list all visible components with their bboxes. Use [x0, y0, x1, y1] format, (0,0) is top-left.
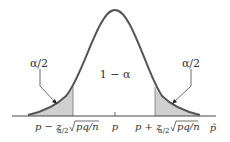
left-tail-shaded-region	[28, 88, 73, 116]
upper-bound-label: p + z α/2 pq/n	[135, 121, 200, 135]
right-tail-shaded-region	[155, 88, 200, 116]
lower-bound-subscript: α/2	[57, 127, 69, 135]
right-tail-label: α/2	[182, 57, 200, 70]
right-tail-leader-line	[172, 69, 191, 104]
upper-bound-radicand: pq/n	[177, 121, 200, 132]
lower-bound-label: p − z α/2 pq/n	[35, 121, 99, 135]
center-area-label: 1 − α	[100, 68, 131, 81]
normal-curve-diagram: α/2 α/2 1 − α p − z α/2 pq/n p p + z α/2…	[0, 0, 230, 142]
left-tail-leader-line	[40, 69, 57, 104]
upper-bound-subscript: α/2	[158, 127, 170, 135]
center-tick-label: p	[112, 121, 119, 132]
axis-variable-label: p̂	[210, 122, 217, 133]
lower-bound-radicand: pq/n	[76, 121, 99, 132]
left-tail-label: α/2	[30, 57, 48, 70]
